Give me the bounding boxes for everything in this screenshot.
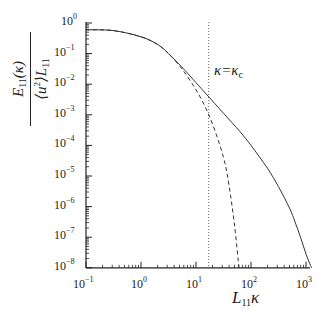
- y-tick-label: 10−5: [54, 168, 75, 180]
- y-tick-label: 10−1: [54, 46, 75, 58]
- x-tick-label: 103: [296, 278, 312, 290]
- kappa-c-annotation: κ=κc: [214, 62, 243, 80]
- y-tick-label: 10−3: [54, 107, 75, 119]
- y-label-fraction-bar: [30, 32, 31, 126]
- y-tick-label: 10−2: [54, 76, 75, 88]
- x-tick-label: 100: [131, 278, 147, 290]
- y-axis-label: E11(κ) ⟨u2⟩L11: [4, 20, 52, 140]
- x-tick-label: 102: [241, 278, 257, 290]
- x-axis-label: L11κ: [232, 288, 259, 308]
- x-tick-label: 101: [186, 278, 202, 290]
- y-tick-label: 10−8: [54, 260, 75, 272]
- x-tick-label: 10−1: [73, 278, 94, 290]
- y-label-numerator: E11(κ): [10, 20, 28, 138]
- y-tick-label: 10−7: [54, 229, 75, 241]
- full-spectrum-solid-curve: [86, 30, 312, 268]
- y-tick-label: 10−4: [54, 137, 75, 149]
- y-tick-label: 10−6: [54, 199, 75, 211]
- y-tick-label: 100: [61, 15, 77, 27]
- y-label-denominator: ⟨u2⟩L11: [32, 20, 51, 138]
